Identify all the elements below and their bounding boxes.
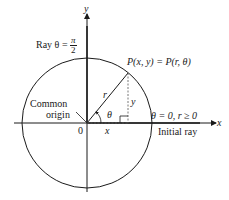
radius-label: r [103,90,107,100]
initial-ray-label: Initial ray [158,127,197,137]
initial-ray-condition: θ = 0, r ≥ 0 [151,111,197,121]
y-segment-label: y [131,97,135,107]
angle-theta-label: θ [107,110,112,120]
common-origin-pointer [76,112,86,122]
x-segment-label: x [105,126,109,136]
angle-arc [96,112,101,123]
ray-pi-over-2-label: Ray θ = π 2 [36,36,77,55]
right-angle-mark [120,116,128,123]
common-label: Common [30,99,67,109]
x-axis-label: x [217,118,221,128]
y-axis-label: y [84,4,88,14]
origin-zero-label: 0 [78,126,83,136]
point-p-label: P(x, y) = P(r, θ) [127,57,191,67]
origin-label: origin [46,110,70,120]
